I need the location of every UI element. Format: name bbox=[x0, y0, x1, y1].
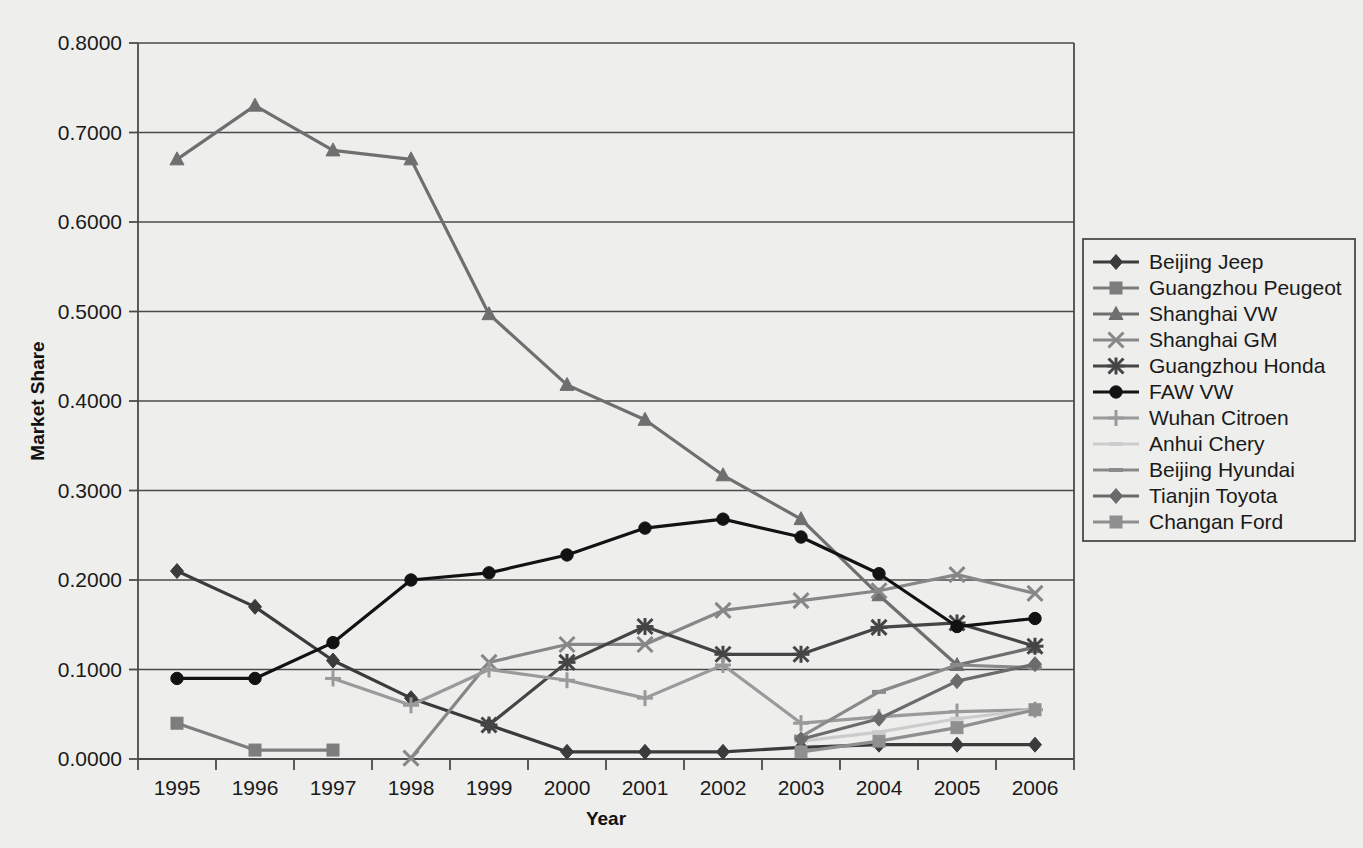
marker-circle bbox=[639, 522, 651, 534]
x-axis-tick-label: 1999 bbox=[466, 776, 513, 799]
marker-circle bbox=[483, 567, 495, 579]
x-axis-tick-label: 2000 bbox=[544, 776, 591, 799]
legend-item-label: Shanghai GM bbox=[1149, 328, 1277, 351]
marker-diamond bbox=[1110, 489, 1123, 504]
marker-square bbox=[1110, 516, 1122, 528]
legend-item-label: Wuhan Citroen bbox=[1149, 406, 1289, 429]
series-line bbox=[489, 623, 1035, 725]
x-axis-tick-label: 2002 bbox=[700, 776, 747, 799]
series-wuhan-citroen bbox=[325, 657, 1043, 731]
legend-item-label: Beijing Jeep bbox=[1149, 250, 1263, 273]
y-axis-tick-label: 0.3000 bbox=[58, 479, 122, 502]
marker-diamond bbox=[639, 744, 652, 759]
x-axis-tick-label: 2003 bbox=[778, 776, 825, 799]
series-beijing-jeep bbox=[171, 564, 1042, 760]
legend-item[interactable]: Shanghai VW bbox=[1093, 302, 1278, 325]
legend-item[interactable]: Anhui Chery bbox=[1093, 432, 1265, 455]
marker-diamond bbox=[249, 599, 262, 614]
marker-circle bbox=[327, 636, 339, 648]
marker-circle bbox=[249, 672, 261, 684]
marker-diamond bbox=[171, 564, 184, 579]
legend-item-label: Shanghai VW bbox=[1149, 302, 1278, 325]
marker-circle bbox=[561, 549, 573, 561]
series-guangzhou-peugeot bbox=[171, 717, 339, 756]
legend-item[interactable]: Beijing Hyundai bbox=[1093, 458, 1295, 481]
marker-triangle bbox=[248, 98, 262, 111]
legend-item-label: Changan Ford bbox=[1149, 510, 1283, 533]
y-axis-tick-label: 0.8000 bbox=[58, 31, 122, 54]
marker-diamond bbox=[1110, 255, 1123, 270]
marker-square bbox=[327, 744, 339, 756]
marker-diamond bbox=[717, 744, 730, 759]
y-axis-tick-label: 0.4000 bbox=[58, 389, 122, 412]
series-line bbox=[177, 106, 1035, 665]
marker-square bbox=[1110, 282, 1122, 294]
legend: Beijing JeepGuangzhou PeugeotShanghai VW… bbox=[1083, 239, 1355, 541]
y-axis-tick-label: 0.7000 bbox=[58, 121, 122, 144]
x-axis-title: Year bbox=[586, 808, 627, 829]
y-axis-tick-label: 0.0000 bbox=[58, 747, 122, 770]
marker-diamond bbox=[327, 653, 340, 668]
marker-triangle bbox=[716, 468, 730, 481]
marker-circle bbox=[1029, 612, 1041, 624]
legend-item[interactable]: Beijing Jeep bbox=[1093, 250, 1263, 273]
marker-square bbox=[171, 717, 183, 729]
x-axis-tick-label: 2001 bbox=[622, 776, 669, 799]
x-axis-tick-label: 2004 bbox=[856, 776, 903, 799]
legend-item[interactable]: Wuhan Citroen bbox=[1093, 406, 1289, 429]
y-axis-tick-label: 0.1000 bbox=[58, 658, 122, 681]
marker-circle bbox=[873, 568, 885, 580]
legend-item-label: FAW VW bbox=[1149, 380, 1234, 403]
legend-item-label: Tianjin Toyota bbox=[1149, 484, 1278, 507]
legend-item[interactable]: Shanghai GM bbox=[1093, 328, 1277, 351]
marker-diamond bbox=[951, 674, 964, 689]
marker-circle bbox=[171, 672, 183, 684]
marker-circle bbox=[405, 574, 417, 586]
legend-item[interactable]: Guangzhou Honda bbox=[1093, 354, 1326, 377]
marker-circle bbox=[795, 531, 807, 543]
series-faw-vw bbox=[171, 513, 1041, 685]
marker-diamond bbox=[561, 744, 574, 759]
y-axis-tick-label: 0.2000 bbox=[58, 568, 122, 591]
marker-circle bbox=[717, 513, 729, 525]
series-line bbox=[801, 664, 1035, 739]
x-axis-tick-label: 1996 bbox=[232, 776, 279, 799]
y-axis-tick-label: 0.6000 bbox=[58, 210, 122, 233]
series-line bbox=[177, 519, 1035, 678]
y-axis-title: Market Share bbox=[27, 341, 48, 460]
y-axis-tick-label: 0.5000 bbox=[58, 300, 122, 323]
marker-triangle bbox=[170, 152, 184, 165]
x-axis-tick-label: 1998 bbox=[388, 776, 435, 799]
marker-square bbox=[795, 746, 807, 758]
marker-diamond bbox=[951, 737, 964, 752]
marker-circle bbox=[1110, 386, 1122, 398]
legend-item[interactable]: Changan Ford bbox=[1093, 510, 1283, 533]
legend-item-label: Guangzhou Honda bbox=[1149, 354, 1326, 377]
series-line bbox=[177, 571, 1035, 752]
marker-square bbox=[249, 744, 261, 756]
marker-circle bbox=[951, 620, 963, 632]
legend-item-label: Anhui Chery bbox=[1149, 432, 1265, 455]
x-axis-tick-label: 1997 bbox=[310, 776, 357, 799]
x-axis-tick-label: 1995 bbox=[154, 776, 201, 799]
marker-triangle bbox=[482, 307, 496, 320]
market-share-line-chart: 0.00000.10000.20000.30000.40000.50000.60… bbox=[0, 0, 1363, 848]
legend-item[interactable]: Tianjin Toyota bbox=[1093, 484, 1278, 507]
marker-square bbox=[951, 722, 963, 734]
legend-item-label: Beijing Hyundai bbox=[1149, 458, 1295, 481]
x-axis-tick-label: 2005 bbox=[934, 776, 981, 799]
x-axis-tick-label: 2006 bbox=[1012, 776, 1059, 799]
legend-item[interactable]: FAW VW bbox=[1093, 380, 1234, 403]
marker-square bbox=[873, 735, 885, 747]
chart-canvas: 0.00000.10000.20000.30000.40000.50000.60… bbox=[0, 0, 1363, 848]
marker-diamond bbox=[1029, 737, 1042, 752]
legend-item[interactable]: Guangzhou Peugeot bbox=[1093, 276, 1342, 299]
legend-item-label: Guangzhou Peugeot bbox=[1149, 276, 1342, 299]
marker-square bbox=[1029, 704, 1041, 716]
marker-diamond bbox=[873, 711, 886, 726]
